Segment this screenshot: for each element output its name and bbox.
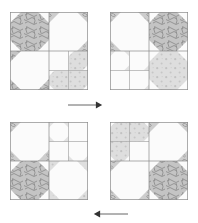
quilt-block-bottom-right (110, 122, 188, 200)
quadrant-bottom-left (110, 161, 149, 200)
quadrant-top-left (10, 12, 49, 51)
quilt-block-bottom-left (10, 122, 88, 200)
quadrant-bottom-right (149, 161, 188, 200)
quadrant-bottom-left (10, 51, 49, 90)
quadrant-bottom-right (49, 51, 88, 90)
quilt-block-top-right (110, 12, 188, 90)
quadrant-top-right (49, 122, 88, 161)
arrow-rotate-left-icon (92, 208, 128, 220)
quadrant-bottom-right (49, 161, 88, 200)
quadrant-bottom-left (10, 161, 49, 200)
quadrant-top-right (149, 12, 188, 51)
quilt-block-top-left (10, 12, 88, 90)
quadrant-top-left (110, 122, 149, 161)
quadrant-bottom-left (110, 51, 149, 90)
quadrant-bottom-right (149, 51, 188, 90)
quadrant-top-left (110, 12, 149, 51)
quadrant-top-left (10, 122, 49, 161)
arrow-rotate-right-icon (68, 99, 104, 111)
quadrant-top-right (149, 122, 188, 161)
quadrant-top-right (49, 12, 88, 51)
diagram-canvas (0, 0, 198, 223)
